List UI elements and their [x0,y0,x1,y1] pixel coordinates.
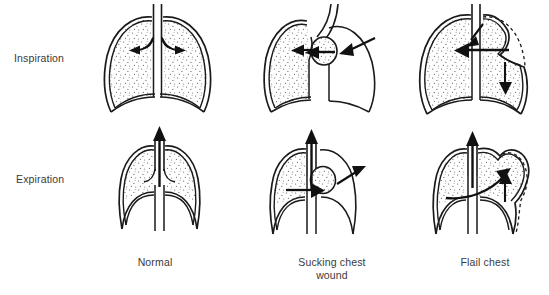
caption-sucking-line2: wound [272,269,392,282]
caption-sucking-line1: Sucking chest [272,256,392,269]
left-diaphragm-inner [440,200,466,230]
sucking-inspiration-drawing [255,4,390,122]
panel-sucking-inspiration [255,4,390,122]
left-diaphragm-inner [277,200,305,230]
left-diaphragm-inner [126,195,154,225]
caption-flail-line1: Flail chest [430,256,540,269]
right-diaphragm-inner [165,195,193,225]
left-mediastinal-border [309,37,312,99]
column-caption-sucking-chest-wound: Sucking chest wound [272,256,392,282]
arrow-air-leaving-wound [337,166,366,184]
right-diaphragm-inner [480,200,509,230]
caption-normal-line1: Normal [100,256,210,269]
row-label-inspiration: Inspiration [14,52,64,64]
panel-normal-inspiration [95,4,220,122]
normal-inspiration-drawing [95,4,220,122]
flail-inspiration-drawing [413,4,549,122]
panel-flail-inspiration [413,4,549,122]
flail-expiration-drawing [420,128,548,240]
sucking-expiration-drawing [258,128,388,240]
row-label-expiration: Expiration [16,173,64,185]
right-diaphragm [329,101,369,112]
right-diaphragm [321,197,353,234]
trachea-left-wall [317,4,331,37]
left-lung-field [424,18,470,110]
normal-expiration-drawing [110,125,215,237]
right-chest-wall-outer [329,27,375,112]
column-caption-normal: Normal [100,256,210,269]
panel-flail-expiration [420,128,548,240]
column-caption-flail-chest: Flail chest [430,256,540,269]
right-diaphragm-outer [480,197,513,234]
panel-normal-expiration [110,125,215,237]
chest-mechanics-figure: Inspiration Expiration [0,0,549,295]
panel-sucking-expiration [258,128,388,240]
